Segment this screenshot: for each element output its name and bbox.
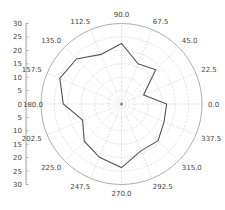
angle-label: 0.0 — [208, 101, 219, 109]
angle-label: 315.0 — [182, 164, 202, 172]
radial-tick-label: 30 — [13, 181, 22, 189]
radial-tick-label: 20 — [13, 47, 22, 55]
radial-tick-label: 0 — [18, 101, 22, 109]
angle-label: 337.5 — [201, 135, 221, 143]
angle-label: 270.0 — [111, 190, 131, 198]
radial-tick-label: 10 — [13, 127, 22, 135]
angle-label: 225.0 — [41, 164, 61, 172]
radial-tick-label: 15 — [13, 141, 22, 149]
angle-label: 202.5 — [22, 135, 42, 143]
radial-tick-label: 20 — [13, 154, 22, 162]
angle-label: 247.5 — [70, 183, 90, 191]
radial-tick-label: 5 — [18, 87, 22, 95]
radial-tick-label: 25 — [13, 168, 22, 176]
radial-tick-label: 10 — [13, 74, 22, 82]
radial-tick-label: 30 — [13, 20, 22, 28]
grid-spoke — [122, 104, 179, 161]
angle-label: 180.0 — [23, 101, 43, 109]
angle-label: 157.5 — [22, 66, 42, 74]
center-marker — [120, 103, 123, 106]
polar-chart: 30252015105051015202530 0.022.545.067.59… — [0, 0, 225, 210]
radial-tick-label: 25 — [13, 33, 22, 41]
angle-label: 45.0 — [182, 37, 198, 45]
angle-label: 22.5 — [201, 66, 217, 74]
radial-tick-label: 5 — [18, 114, 22, 122]
angle-label: 90.0 — [114, 11, 130, 19]
angle-label: 112.5 — [70, 18, 90, 26]
grid-spoke — [122, 47, 179, 104]
angle-label: 292.5 — [153, 183, 173, 191]
radial-tick-label: 15 — [13, 60, 22, 68]
angle-label: 67.5 — [153, 18, 169, 26]
angle-label: 135.0 — [41, 37, 61, 45]
